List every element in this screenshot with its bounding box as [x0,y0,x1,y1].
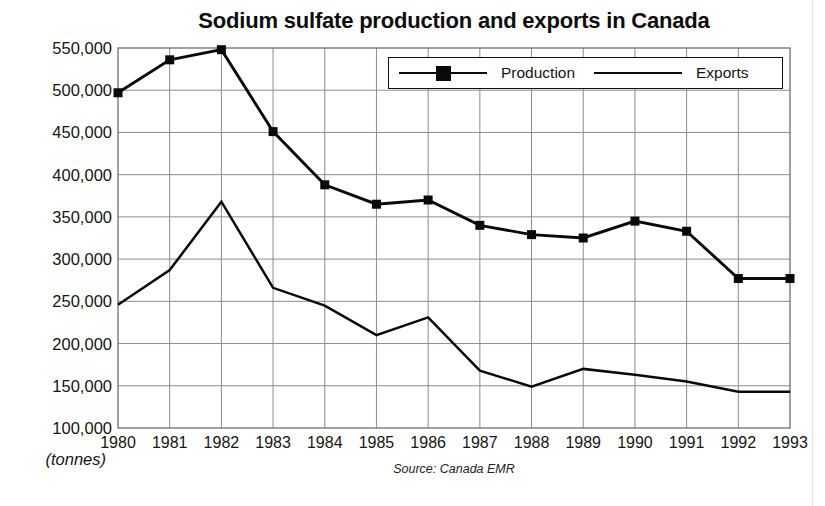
data-point-marker-production [320,180,329,189]
data-point-marker-production [165,55,174,64]
data-point-marker-production [424,196,433,205]
legend-item-exports: Exports [594,58,749,88]
page-edge-divider [812,0,813,506]
data-point-marker-production [475,221,484,230]
data-point-marker-production [579,234,588,243]
horizontal-gridlines [118,90,790,386]
legend-label-exports: Exports [696,64,749,82]
legend-label-production: Production [501,64,575,82]
data-point-marker-production [734,274,743,283]
source-note: Source: Canada EMR [118,462,790,476]
data-point-marker-production [630,217,639,226]
data-point-marker-production [786,274,795,283]
plot-frame [118,48,790,428]
data-point-marker-production [682,227,691,236]
data-point-marker-production [217,45,226,54]
legend-swatch-exports-icon [594,64,682,82]
data-series-layer [114,45,795,392]
chart-figure: Sodium sulfate production and exports in… [0,0,825,506]
chart-legend: Production Exports [388,57,783,89]
legend-item-production: Production [399,58,575,88]
legend-swatch-production-icon [399,64,487,82]
data-point-marker-production [527,230,536,239]
data-point-marker-production [372,200,381,209]
data-point-marker-production [114,88,123,97]
data-point-marker-production [269,127,278,136]
